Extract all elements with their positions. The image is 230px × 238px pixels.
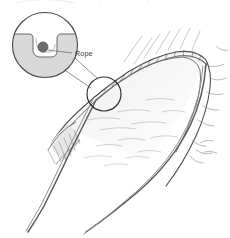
inset-rope-cross-section <box>38 42 48 52</box>
illustration-figure: Rope <box>0 0 230 238</box>
rope-label: Rope <box>75 49 93 58</box>
rope-over-ridge-diagram: Rope <box>0 0 230 238</box>
